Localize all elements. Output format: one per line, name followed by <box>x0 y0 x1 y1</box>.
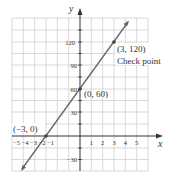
point-0-60 <box>78 87 82 91</box>
y-axis-arrow-icon <box>78 8 83 15</box>
chart-svg: y x 120 90 60 30 −30 −5 −4 −3 −2 −1 1 2 … <box>0 0 181 181</box>
point-label-3-120: (3, 120) <box>117 44 146 54</box>
y-axis-label: y <box>68 3 74 14</box>
x-tick-2: 2 <box>101 139 104 146</box>
point-label-neg3-0: (−3, 0) <box>13 124 38 134</box>
point-label-0-60: (0, 60) <box>84 89 108 99</box>
y-tick-90: 90 <box>71 62 78 69</box>
point-neg3-0 <box>44 134 48 138</box>
y-tick-60: 60 <box>71 86 78 93</box>
check-point-label: Check point <box>117 56 161 66</box>
data-line <box>22 22 128 169</box>
point-3-120 <box>112 40 116 44</box>
x-tick-4: 4 <box>124 139 128 146</box>
x-tick-5: 5 <box>135 139 138 146</box>
x-axis-label: x <box>157 138 163 149</box>
x-tick-3: 3 <box>112 139 115 146</box>
x-tick-1: 1 <box>90 139 93 146</box>
line-arrow-top-icon <box>124 21 130 27</box>
chart: y x 120 90 60 30 −30 −5 −4 −3 −2 −1 1 2 … <box>0 0 181 181</box>
y-tick-120: 120 <box>65 39 75 46</box>
y-tick-neg30: −30 <box>67 156 77 163</box>
x-tick-labels-negative: −5 −4 −3 −2 −1 <box>13 139 54 146</box>
y-tick-30: 30 <box>71 109 78 116</box>
